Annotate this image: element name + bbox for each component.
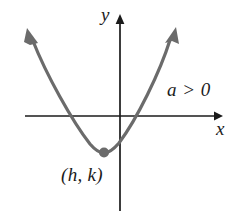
parabola-curve [33,40,170,153]
parabola-left-arrowhead-icon [24,28,38,45]
coefficient-condition-label: a > 0 [167,80,211,99]
parabola-figure: y x a > 0 (h, k) [0,0,244,211]
y-axis-label: y [101,5,109,24]
parabola-right-arrowhead-icon [165,27,179,44]
parabola-graph-svg [0,0,244,211]
vertex-coordinates-label: (h, k) [61,165,103,184]
x-axis-label: x [216,119,224,138]
vertex-point-marker [99,148,109,158]
y-axis-arrowhead-icon [116,14,125,24]
